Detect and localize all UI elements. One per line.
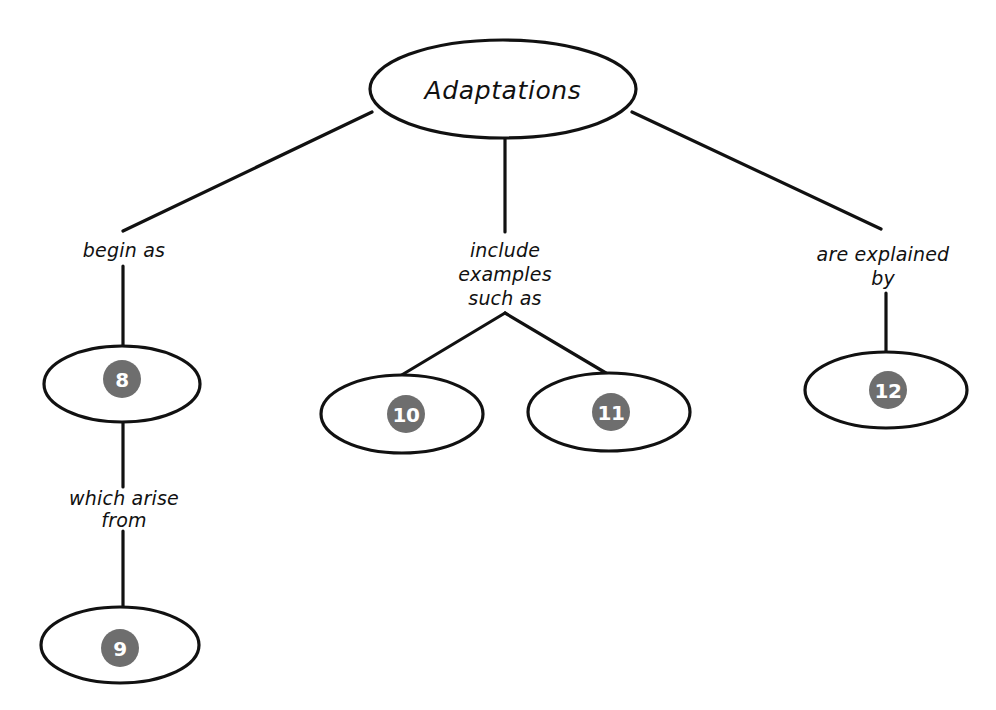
blank-8-number: 8 [115, 368, 128, 392]
blank-12-number: 12 [875, 379, 902, 403]
concept-map-diagram: Adaptations begin as include examples su… [0, 0, 996, 710]
edge-label-begin-as: begin as [83, 239, 165, 261]
edge-label-from: from [101, 509, 146, 531]
blank-9-number: 9 [113, 637, 126, 661]
connector-fork-left-to-blank10 [400, 313, 505, 376]
edge-label-include: include [470, 239, 540, 261]
edge-label-such-as: such as [468, 287, 541, 309]
connector-root-to-right [632, 112, 881, 229]
edge-label-examples: examples [458, 263, 552, 285]
connector-fork-right-to-blank11 [505, 313, 611, 376]
connector-root-to-left [123, 112, 372, 231]
edge-label-which-arise: which arise [69, 487, 179, 509]
diagram-canvas: Adaptations begin as include examples su… [0, 0, 996, 710]
root-node-label: Adaptations [423, 76, 582, 105]
blank-10-number: 10 [393, 403, 420, 427]
blank-11-number: 11 [598, 401, 625, 425]
edge-label-by: by [871, 267, 895, 289]
edge-label-are-explained: are explained [817, 243, 951, 265]
